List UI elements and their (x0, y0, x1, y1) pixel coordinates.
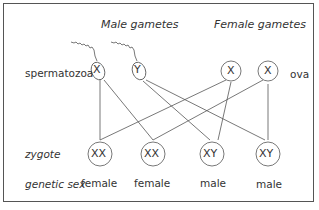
zygote-label: zygote (25, 148, 60, 160)
male-gametes-header: Male gametes (101, 18, 179, 31)
zygote-3-genotype: XY (203, 147, 217, 160)
sperm-tail-x (71, 42, 97, 61)
zygote-2-sex: female (134, 177, 170, 189)
genetic-sex-label: genetic sex (25, 178, 86, 190)
sperm-x-chromosome: X (93, 63, 101, 76)
zygote-2-genotype: XX (144, 147, 159, 160)
spermatozoa-label: spermatozoa (25, 67, 93, 79)
female-gametes-header: Female gametes (214, 18, 306, 31)
sperm-tail-y (111, 42, 137, 61)
ovum-1-chromosome: X (227, 64, 235, 77)
zygote-4-sex: male (256, 178, 282, 190)
line-y-sperm-to-zygote3 (143, 81, 210, 140)
sperm-y-chromosome: Y (134, 63, 141, 76)
line-x-sperm-to-zygote2 (104, 80, 153, 140)
line-ovum1-to-zygote3 (218, 82, 231, 140)
ova-label: ova (290, 68, 309, 80)
zygote-1-genotype: XX (91, 147, 106, 160)
zygote-4-genotype: XY (259, 147, 273, 160)
zygote-3-sex: male (200, 177, 226, 189)
zygote-1-sex: female (81, 177, 117, 189)
ovum-2-chromosome: X (264, 64, 272, 77)
